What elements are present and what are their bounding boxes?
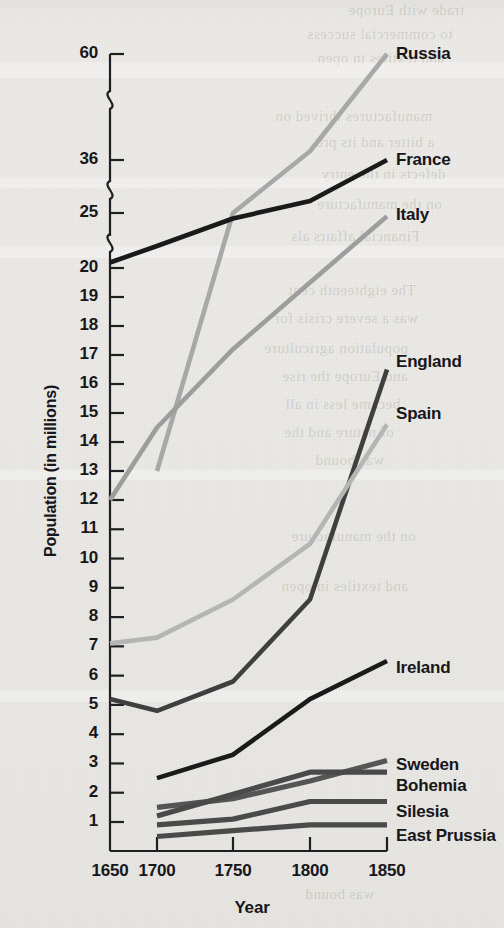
scanned-page-background: trade with Europe to commercial success … <box>0 0 504 928</box>
y-axis-tick-label: 36 <box>40 149 98 169</box>
chart-axes <box>107 54 387 851</box>
y-axis-tick-label: 3 <box>40 752 98 772</box>
x-axis-tick-label: 1700 <box>121 861 193 881</box>
y-axis-tick-label: 25 <box>40 202 98 222</box>
series-label-silesia: Silesia <box>396 802 448 822</box>
y-axis-tick-label: 20 <box>40 257 98 277</box>
y-axis-tick-label: 8 <box>40 606 98 626</box>
y-axis-tick-label: 9 <box>40 577 98 597</box>
y-axis-tick-label: 18 <box>40 315 98 335</box>
x-axis-tick-label: 1750 <box>197 861 269 881</box>
y-axis-tick-label: 1 <box>40 811 98 831</box>
y-axis-tick-label: 19 <box>40 286 98 306</box>
series-label-bohemia: Bohemia <box>396 776 466 796</box>
series-label-england: England <box>396 352 462 372</box>
series-label-spain: Spain <box>396 404 441 424</box>
y-axis-tick-label: 60 <box>40 43 98 63</box>
y-axis-tick-label: 5 <box>40 694 98 714</box>
y-axis-tick-label: 4 <box>40 723 98 743</box>
x-axis-tick-label: 1850 <box>351 861 423 881</box>
series-label-ireland: Ireland <box>396 658 450 678</box>
y-axis-tick-label: 7 <box>40 635 98 655</box>
y-axis-tick-label: 17 <box>40 344 98 364</box>
y-axis-tick-label: 2 <box>40 782 98 802</box>
series-label-sweden: Sweden <box>396 755 459 775</box>
series-label-east-prussia: East Prussia <box>396 826 496 846</box>
series-label-italy: Italy <box>396 205 429 225</box>
series-label-france: France <box>396 150 451 170</box>
chart-series-lines <box>110 54 387 837</box>
y-axis-title: Population (in millions) <box>42 376 60 566</box>
y-axis-tick-label: 6 <box>40 665 98 685</box>
x-axis-tick-label: 1800 <box>274 861 346 881</box>
series-label-russia: Russia <box>396 44 451 64</box>
x-axis-title: Year <box>0 898 504 918</box>
